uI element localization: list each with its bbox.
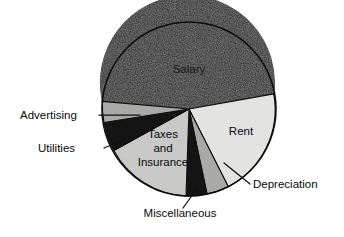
slice-label-salary: Salary xyxy=(173,63,206,75)
pie-chart-canvas: Salary Rent Taxes and Insurance Advertis… xyxy=(0,0,344,237)
pie-chart-figure: Salary Rent Taxes and Insurance Advertis… xyxy=(0,0,344,237)
slice-label-taxes-line2: and xyxy=(153,142,172,154)
callout-label-depreciation: Depreciation xyxy=(253,178,318,190)
slice-label-rent: Rent xyxy=(229,125,254,137)
slice-label-taxes-line1: Taxes xyxy=(148,128,178,140)
callout-label-miscellaneous: Miscellaneous xyxy=(144,207,217,219)
slice-label-taxes-line3: Insurance xyxy=(138,156,189,168)
callout-label-advertising: Advertising xyxy=(20,109,77,121)
callout-label-utilities: Utilities xyxy=(38,142,75,154)
